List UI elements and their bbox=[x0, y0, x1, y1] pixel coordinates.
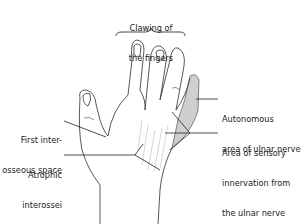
label-sensory: Area of sensory innervation from the uln… bbox=[222, 128, 290, 224]
label-first-interosseous-line1: First inter- bbox=[2, 135, 62, 145]
label-sensory-line1: Area of sensory bbox=[222, 148, 290, 158]
label-atrophic-line1: Atrophic bbox=[2, 170, 62, 180]
label-autonomous-line1: Autonomous bbox=[222, 114, 300, 124]
label-sensory-line2: innervation from bbox=[222, 178, 290, 188]
label-atrophic: Atrophic interossei bbox=[2, 150, 62, 220]
leader-first-interosseous bbox=[64, 121, 106, 137]
label-clawing-line2: the fingers bbox=[118, 53, 184, 63]
label-clawing-line1: Clawing of bbox=[118, 23, 184, 33]
label-atrophic-line2: interossei bbox=[2, 200, 62, 210]
atrophic-interossei-hatching bbox=[138, 120, 168, 172]
label-clawing: Clawing of the fingers bbox=[118, 3, 184, 73]
label-sensory-line3: the ulnar nerve bbox=[222, 208, 290, 218]
leader-atrophic bbox=[64, 155, 160, 170]
